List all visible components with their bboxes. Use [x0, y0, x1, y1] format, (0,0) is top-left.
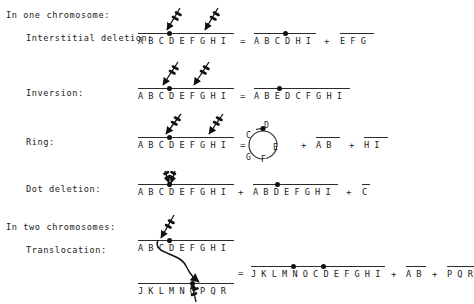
row-label-ring: Ring: [26, 137, 55, 147]
section-heading-one-chromosome: In one chromosome: [6, 10, 110, 20]
chromosome-letters: J K L M N O P Q R [138, 286, 226, 296]
chromosome-bar [138, 88, 234, 89]
break-arrow-interstitial-1 [167, 8, 181, 30]
break-arrow-dot-deletion-2 [170, 171, 175, 183]
break-arrow-ring-1 [166, 114, 181, 134]
equals-sign-interstitial-deletion: = [240, 36, 245, 46]
diagram-canvas: In one chromosome: Interstitial deletion… [0, 0, 474, 304]
chromosome-letters: A B C D E F G H I [138, 140, 226, 150]
chromosome-bar [254, 88, 350, 89]
chromosome-bar [251, 266, 385, 267]
row-label-translocation: Translocation: [26, 245, 107, 255]
ring-letter-d: D [264, 120, 269, 130]
row-label-inversion: Inversion: [26, 88, 84, 98]
break-arrow-interstitial-2 [205, 8, 219, 30]
fragment-letters: P Q R [447, 269, 473, 279]
plus-sign-ring-2: + [349, 140, 354, 150]
row-label-dot-deletion: Dot deletion: [26, 184, 101, 194]
equals-sign-translocation: = [238, 268, 243, 278]
chromosome-bar [138, 137, 234, 138]
plus-sign-dot-deletion-2: + [346, 187, 351, 197]
overlay-graphics: D C E F G [0, 0, 474, 304]
fragment-bar [340, 33, 374, 34]
chromosome-bar [138, 240, 234, 241]
chromosome-bar [138, 33, 234, 34]
ring-letter-f: F [261, 154, 266, 164]
centromere-dot [260, 126, 265, 131]
break-arrow-ring-2 [209, 114, 223, 134]
chromosome-letters: A B C D E F G H I [138, 243, 226, 253]
chromosome-letters: J K L M N O C D E F G H I [251, 269, 380, 279]
chromosome-letters: A B C D H I [254, 36, 311, 46]
ring-letter-e: E [273, 142, 278, 152]
chromosome-letters: A B C D E F G H I [138, 91, 226, 101]
fragment-bar [406, 266, 426, 267]
chromosome-letters: A B D E F G H I [253, 187, 331, 197]
plus-sign-ring-1: + [301, 140, 306, 150]
fragment-letters: C [362, 187, 367, 197]
break-arrow-inversion-2 [194, 62, 209, 85]
fragment-letters: E F G [340, 36, 366, 46]
break-arrow-dot-deletion-1 [165, 171, 170, 183]
break-arrow-translocation-1 [161, 215, 174, 238]
ring-chromosome-ring: D C E F G [246, 120, 278, 164]
fragment-letters: A B [406, 269, 422, 279]
fragment-bar [362, 184, 370, 185]
plus-sign-dot-deletion-1: + [238, 187, 243, 197]
plus-sign-translocation-2: + [432, 269, 437, 279]
ring-letter-g: G [246, 152, 251, 162]
plus-sign-interstitial-deletion: + [324, 36, 329, 46]
chromosome-letters: A B C D E F G H I [138, 187, 226, 197]
chromosome-letters: A B C D E F G H I [138, 36, 226, 46]
chromosome-letters: A B E D C F G H I [254, 91, 342, 101]
fragment-bar [316, 137, 340, 138]
equals-sign-inversion: = [240, 91, 245, 101]
fragment-bar [447, 266, 474, 267]
ring-letter-c: C [246, 130, 251, 140]
section-heading-two-chromosomes: In two chromosomes: [6, 222, 116, 232]
fragment-bar [364, 137, 388, 138]
chromosome-bar [138, 283, 234, 284]
plus-sign-translocation-1: + [391, 269, 396, 279]
equals-sign-ring: = [240, 140, 245, 150]
chromosome-bar [253, 184, 338, 185]
fragment-letters: A B [316, 140, 332, 150]
chromosome-bar [138, 184, 234, 185]
break-arrow-inversion-1 [163, 62, 178, 85]
row-label-interstitial-deletion: Interstitial deletion: [26, 33, 153, 43]
fragment-letters: H I [364, 140, 380, 150]
